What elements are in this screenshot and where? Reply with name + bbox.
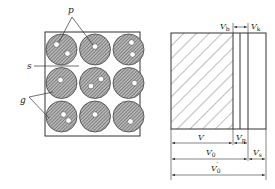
solid-volume-region: [171, 33, 233, 129]
label-p: p: [68, 5, 74, 15]
pore: [65, 51, 71, 57]
particle-grid: [46, 34, 144, 132]
particle: [46, 34, 77, 65]
pore: [61, 112, 67, 118]
label-v: V: [198, 133, 205, 142]
label-vp: Vp: [236, 133, 246, 144]
label-s: s: [27, 61, 32, 71]
pore: [92, 112, 98, 118]
pore: [129, 40, 135, 46]
pore: [54, 42, 60, 48]
particle: [113, 68, 144, 99]
granular-structure-figure: s p g: [20, 5, 144, 136]
particle: [113, 34, 144, 65]
volume-composition-figure: Vb Vk V Vp V0 Vs V0′: [171, 22, 266, 180]
pore: [130, 52, 136, 58]
pore: [132, 80, 138, 86]
label-vk: Vk: [251, 22, 261, 32]
pore: [128, 119, 134, 125]
particle: [80, 68, 111, 99]
label-v0: V0: [206, 148, 216, 158]
label-v0-prime: V0′: [211, 161, 221, 174]
pore: [66, 118, 72, 124]
particle: [113, 101, 144, 132]
label-vb: Vb: [220, 22, 230, 32]
pore: [98, 76, 104, 82]
particle: [46, 68, 77, 99]
label-vs: Vs: [253, 148, 262, 158]
diagram-canvas: s p g Vb Vk V: [0, 0, 275, 189]
pore: [88, 83, 94, 89]
label-g: g: [20, 95, 26, 105]
pore: [58, 77, 64, 83]
